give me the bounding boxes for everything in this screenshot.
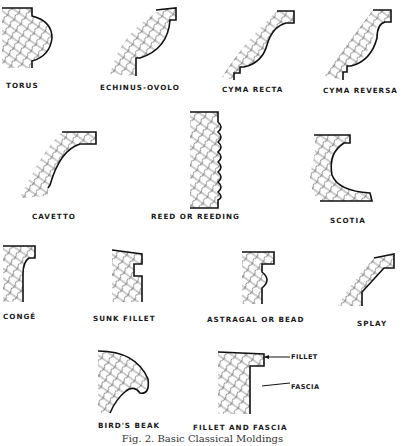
figure-caption: Fig. 2. Basic Classical Moldings (0, 433, 405, 444)
astragal-molding (240, 250, 276, 306)
scotia-molding (310, 133, 378, 205)
reed-molding (188, 110, 222, 210)
label-sunk-fillet: SUNK FILLET (93, 314, 156, 323)
torus-molding (2, 6, 52, 71)
label-cavetto: CAVETTO (32, 212, 76, 221)
label-splay: SPLAY (357, 319, 387, 328)
label-reed: REED OR REEDING (151, 212, 240, 221)
label-fillet-and-fascia: FILLET AND FASCIA (193, 423, 287, 432)
label-scotia: SCOTIA (330, 216, 366, 225)
label-astragal: ASTRAGAL OR BEAD (207, 315, 304, 324)
echinus-ovolo-molding (110, 4, 180, 76)
cyma-reversa-molding (325, 6, 395, 81)
label-conge: CONGÉ (3, 312, 36, 321)
label-echinus-ovolo: ECHINUS-OVOLO (100, 83, 180, 92)
conge-molding (3, 244, 39, 304)
label-birds-beak: BIRD'S BEAK (98, 421, 160, 430)
sunk-fillet-molding (110, 248, 146, 304)
label-cyma-reversa: CYMA REVERSA (323, 86, 398, 95)
splay-molding (338, 252, 398, 308)
fillet-and-fascia-molding (218, 350, 268, 416)
cavetto-molding (20, 130, 100, 200)
cyma-recta-molding (222, 5, 297, 80)
label-cyma-recta: CYMA RECTA (222, 85, 283, 94)
birds-beak-molding (96, 349, 156, 415)
callout-fascia: FASCIA (291, 383, 319, 391)
fillet-leader-line (262, 350, 292, 390)
label-torus: TORUS (6, 81, 39, 90)
callout-fillet: FILLET (291, 353, 318, 361)
